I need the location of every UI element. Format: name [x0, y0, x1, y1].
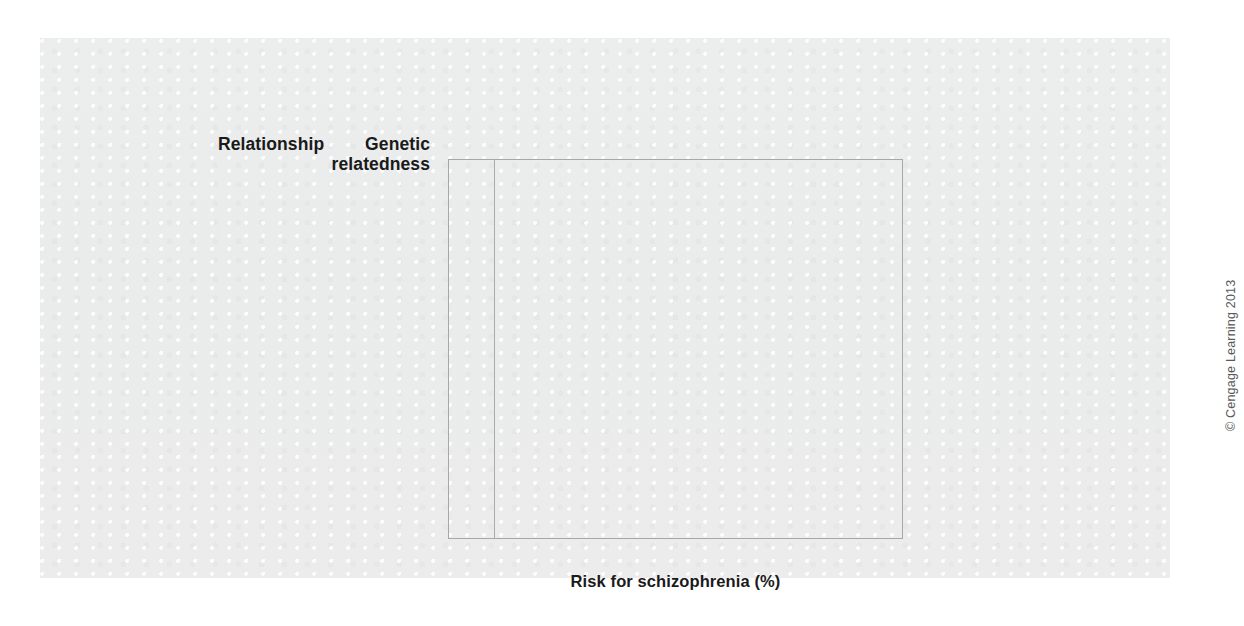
- gridline-1: [494, 160, 495, 538]
- x-axis-title: Risk for schizophrenia (%): [448, 572, 903, 591]
- row-label-column: Relationship Genetic relatedness: [40, 38, 448, 578]
- copyright-notice: © Cengage Learning 2013: [1224, 280, 1238, 431]
- plot-area: [448, 159, 903, 539]
- column-header-genetic-relatedness: Genetic relatedness: [260, 134, 430, 174]
- figure-panel: Relationship Genetic relatedness Risk fo…: [40, 38, 1170, 578]
